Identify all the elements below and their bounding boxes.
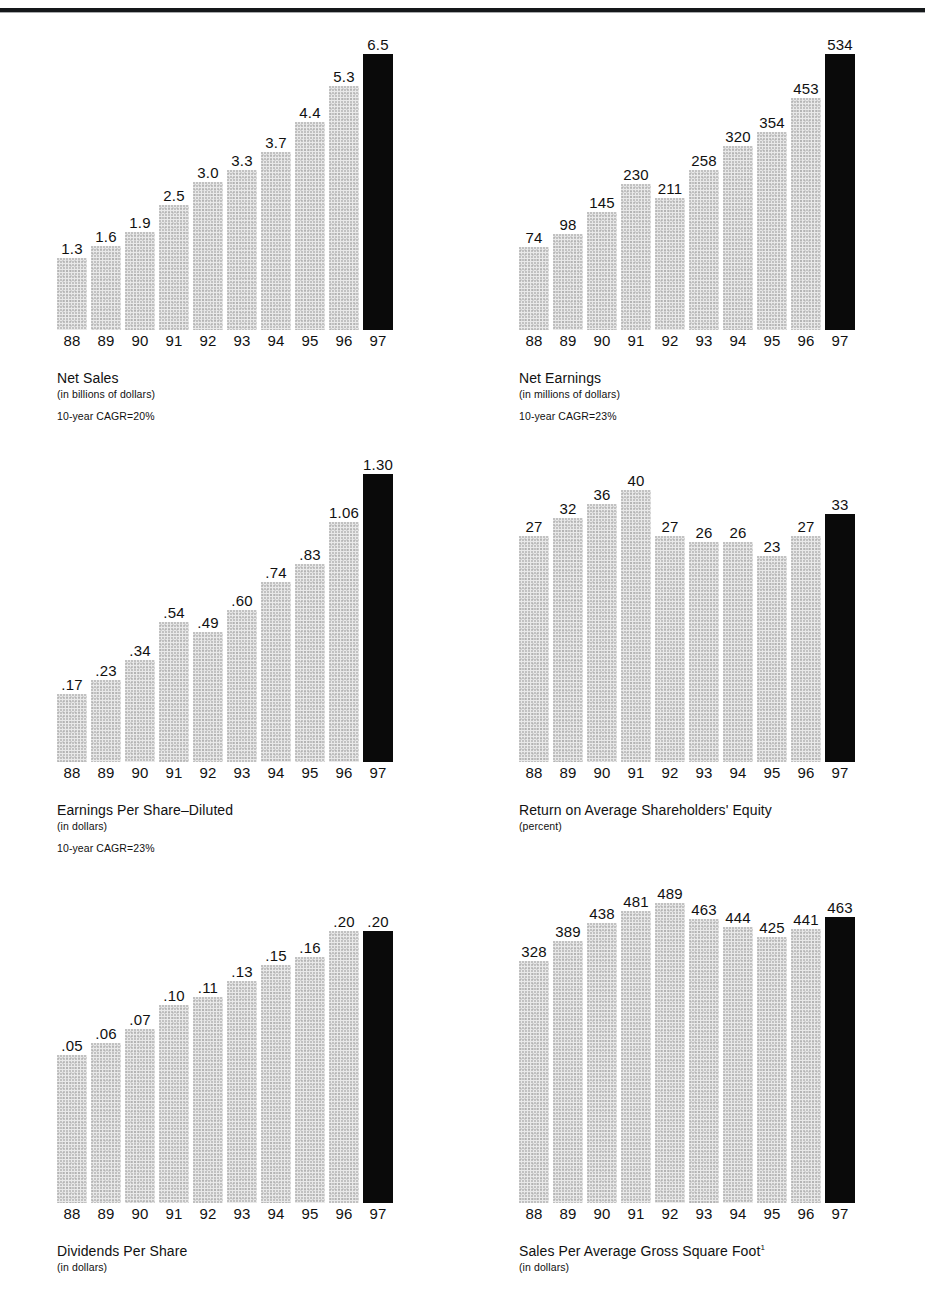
bar-slot: .20: [329, 931, 359, 1203]
caption-dividends-per-share: Dividends Per Share (in dollars): [57, 1243, 187, 1274]
bar-value-label: 27: [797, 519, 814, 534]
x-axis-year-label: 89: [553, 333, 583, 349]
x-axis-year-label: 88: [519, 1206, 549, 1222]
bar: .13: [227, 981, 257, 1203]
bar-slot: .11: [193, 997, 223, 1203]
bar-slot: 230: [621, 184, 651, 330]
bar: 27: [519, 536, 549, 762]
bar-slot: 2.5: [159, 205, 189, 330]
x-axis-year-label: 93: [227, 765, 257, 781]
bar-value-label: .60: [231, 593, 252, 608]
bar-slot: .74: [261, 582, 291, 762]
caption-net-sales: Net Sales (in billions of dollars) 10-ye…: [57, 370, 155, 423]
bar-value-label: 3.3: [231, 153, 252, 168]
x-axis-year-label: 94: [261, 765, 291, 781]
x-axis-year-label: 95: [295, 1206, 325, 1222]
bar-slot: .16: [295, 957, 325, 1203]
x-axis-year-label: 91: [621, 765, 651, 781]
bar: 36: [587, 504, 617, 762]
x-axis-year-label: 96: [329, 1206, 359, 1222]
bar-slot: 425: [757, 937, 787, 1203]
bar-slot: 1.30: [363, 474, 393, 762]
x-axis-year-label: 89: [553, 765, 583, 781]
bar: 40: [621, 490, 651, 762]
bar: .17: [57, 694, 87, 762]
x-axis-year-label: 88: [57, 765, 87, 781]
x-axis-year-label: 96: [791, 1206, 821, 1222]
bar-slot: .83: [295, 564, 325, 762]
bar-slot: 23: [757, 556, 787, 762]
x-axis-year-label: 96: [329, 333, 359, 349]
bar-value-label: 481: [623, 894, 649, 909]
bar-value-label: 40: [627, 473, 644, 488]
x-axis-year-label: 95: [757, 1206, 787, 1222]
x-axis-year-label: 95: [295, 333, 325, 349]
bar-slot: 3.3: [227, 170, 257, 330]
bar-value-label: 26: [729, 525, 746, 540]
bar-value-label: 5.3: [333, 69, 354, 84]
bar: .06: [91, 1043, 121, 1203]
bar: 3.7: [261, 152, 291, 330]
x-axis-year-label: 90: [587, 765, 617, 781]
bar: 2.5: [159, 205, 189, 330]
bar: 438: [587, 923, 617, 1203]
x-axis-year-label: 94: [261, 333, 291, 349]
bar-slot: 3.7: [261, 152, 291, 330]
x-axis-year-label: 88: [57, 1206, 87, 1222]
chart-note: 10-year CAGR=23%: [57, 841, 233, 855]
x-axis-year-label: 94: [261, 1206, 291, 1222]
bar-slot: 463: [825, 917, 855, 1203]
bar-slot: 441: [791, 929, 821, 1203]
bar-value-label: 26: [695, 525, 712, 540]
bar: .20: [329, 931, 359, 1203]
x-axis-year-label: 97: [363, 765, 393, 781]
x-axis-year-label: 94: [723, 765, 753, 781]
chart-panel-return-on-average-shareholders-equity: 27323640272626232733 8889909192939495969…: [519, 450, 909, 880]
bar: 534: [825, 54, 855, 330]
x-axis-year-label: 88: [57, 333, 87, 349]
bar: 425: [757, 937, 787, 1203]
plot-area-net-sales: 1.31.61.92.53.03.33.74.45.36.5: [57, 30, 402, 330]
bar-slot: 320: [723, 146, 753, 330]
bar: .83: [295, 564, 325, 762]
x-axis-year-label: 90: [125, 765, 155, 781]
plot-area-earnings-per-share-diluted: .17.23.34.54.49.60.74.831.061.30: [57, 450, 402, 762]
chart-title: Sales Per Average Gross Square Foot1: [519, 1243, 765, 1260]
x-axis-year-label: 97: [825, 333, 855, 349]
bar-value-label: 489: [657, 886, 683, 901]
bar-value-label: .16: [299, 940, 320, 955]
bar: 1.06: [329, 522, 359, 762]
x-axis-year-label: 88: [519, 765, 549, 781]
bar: .60: [227, 610, 257, 762]
bar-value-label: 74: [525, 230, 542, 245]
x-axis-year-label: 91: [621, 333, 651, 349]
x-axis-year-label: 90: [587, 333, 617, 349]
bar-value-label: .10: [163, 988, 184, 1003]
bar-slot: 328: [519, 961, 549, 1203]
x-axis-year-label: 97: [825, 1206, 855, 1222]
chart-title-text: Sales Per Average Gross Square Foot: [519, 1243, 760, 1259]
bar-value-label: 36: [593, 487, 610, 502]
bar: .11: [193, 997, 223, 1203]
plot-area-net-earnings: 7498145230211258320354453534: [519, 30, 864, 330]
bar: .74: [261, 582, 291, 762]
bar: 1.30: [363, 474, 393, 762]
bar-slot: .17: [57, 694, 87, 762]
bar-value-label: 145: [589, 195, 615, 210]
bar: 27: [791, 536, 821, 762]
bar-slot: 33: [825, 514, 855, 762]
footnote-marker: 1: [760, 1243, 765, 1252]
x-axis-year-label: 91: [159, 1206, 189, 1222]
chart-panel-dividends-per-share: .05.06.07.10.11.13.15.16.20.20 888990919…: [57, 880, 447, 1300]
bar: 211: [655, 198, 685, 330]
x-axis-year-label: 90: [125, 1206, 155, 1222]
bar-slot: 145: [587, 212, 617, 330]
bar-value-label: 211: [658, 181, 683, 196]
bar-value-label: 4.4: [299, 105, 320, 120]
x-axis-year-label: 92: [655, 1206, 685, 1222]
bar-slot: 444: [723, 927, 753, 1203]
bar: 453: [791, 98, 821, 330]
bar-value-label: 33: [831, 497, 848, 512]
plot-area-dividends-per-share: .05.06.07.10.11.13.15.16.20.20: [57, 880, 402, 1203]
bar: .05: [57, 1055, 87, 1203]
